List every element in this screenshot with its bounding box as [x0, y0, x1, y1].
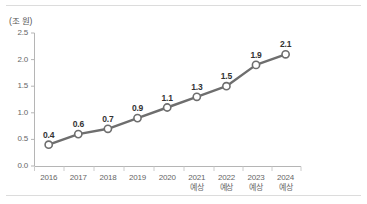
data-point-marker	[252, 61, 259, 68]
data-point-marker	[282, 51, 289, 58]
y-tick-label: 1.0	[6, 108, 28, 117]
data-point-label: 0.7	[95, 114, 121, 124]
x-tick-year: 2021	[188, 173, 205, 182]
data-point-label: 0.6	[65, 119, 91, 129]
x-tick-sublabel: 예상	[266, 183, 306, 193]
x-tick-year: 2023	[248, 173, 265, 182]
data-point-label: 0.9	[125, 103, 151, 113]
x-tick-year: 2019	[129, 173, 146, 182]
data-point-marker	[75, 131, 82, 138]
data-point-marker	[193, 93, 200, 100]
data-point-label: 1.3	[184, 82, 210, 92]
data-point-marker	[164, 104, 171, 111]
x-tick-year: 2017	[70, 173, 87, 182]
y-tick-label: 0.0	[6, 161, 28, 170]
data-point-marker	[223, 83, 230, 90]
data-point-marker	[134, 115, 141, 122]
data-point-label: 1.1	[154, 93, 180, 103]
y-tick-label: 0.5	[6, 134, 28, 143]
data-point-marker	[45, 141, 52, 148]
y-tick-label: 2.5	[6, 28, 28, 37]
data-point-marker	[104, 125, 111, 132]
data-point-label: 1.9	[243, 50, 269, 60]
y-tick-label: 2.0	[6, 55, 28, 64]
data-point-label: 2.1	[273, 39, 299, 49]
data-point-label: 1.5	[213, 71, 239, 81]
x-tick-year: 2018	[99, 173, 116, 182]
x-tick-label-2024: 2024 예상	[266, 173, 306, 193]
x-tick-year: 2024	[277, 173, 294, 182]
x-tick-year: 2022	[218, 173, 235, 182]
y-tick-label: 1.5	[6, 81, 28, 90]
x-tick-year: 2020	[159, 173, 176, 182]
data-point-label: 0.4	[36, 130, 62, 140]
chart-container: (조 원) 2.5 2	[0, 0, 367, 204]
x-tick-year: 2016	[40, 173, 57, 182]
